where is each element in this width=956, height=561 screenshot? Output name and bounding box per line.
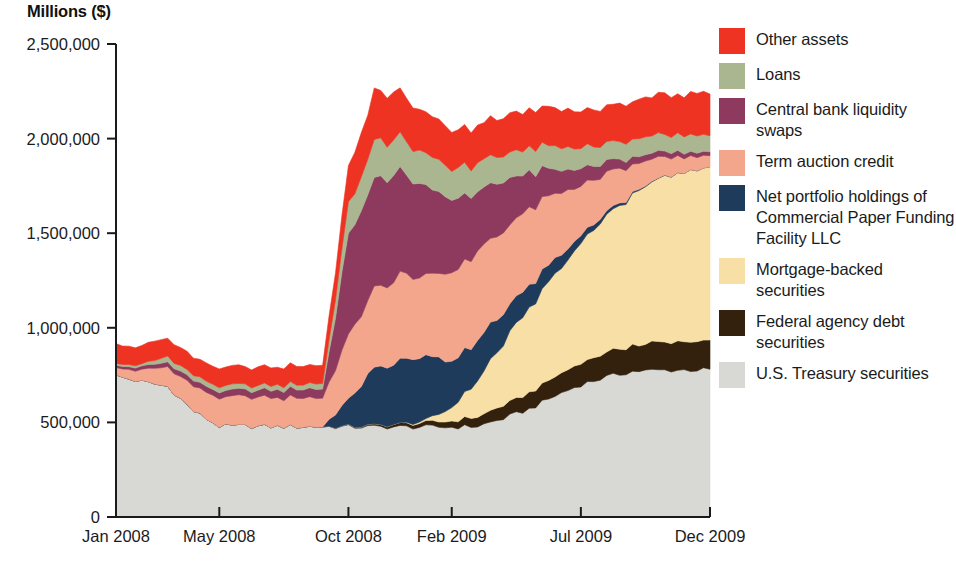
- legend-swatch-loans: [719, 63, 745, 89]
- y-tick-label: 2,500,000: [27, 35, 100, 53]
- y-tick-label: 2,000,000: [27, 130, 100, 148]
- legend-swatch-other_assets: [719, 28, 745, 54]
- legend-swatch-mbs: [719, 258, 745, 284]
- legend-item-term_auction[interactable]: Term auction credit: [719, 150, 956, 176]
- legend-item-treasury[interactable]: U.S. Treasury securities: [719, 362, 956, 388]
- legend-item-loans[interactable]: Loans: [719, 63, 956, 89]
- legend-label-loans: Loans: [756, 63, 800, 85]
- x-tick-label: Dec 2009: [675, 527, 746, 545]
- legend-swatch-swaps: [719, 98, 745, 124]
- legend-label-other_assets: Other assets: [756, 28, 848, 50]
- chart-legend: Other assetsLoansCentral bank liquidity …: [719, 28, 956, 397]
- x-tick-label: Jul 2009: [550, 527, 612, 545]
- y-tick-label: 1,500,000: [27, 224, 100, 242]
- x-tick-label: Jan 2008: [82, 527, 150, 545]
- x-tick-label: May 2008: [183, 527, 255, 545]
- x-tick-label: Feb 2009: [417, 527, 487, 545]
- legend-item-other_assets[interactable]: Other assets: [719, 28, 956, 54]
- legend-label-cpff: Net portfolio holdings of Commercial Pap…: [756, 185, 956, 249]
- legend-swatch-agency_debt: [719, 310, 745, 336]
- legend-label-mbs: Mortgage-backed securities: [756, 258, 956, 301]
- legend-label-term_auction: Term auction credit: [756, 150, 894, 172]
- legend-label-agency_debt: Federal agency debt securities: [756, 310, 956, 353]
- legend-item-agency_debt[interactable]: Federal agency debt securities: [719, 310, 956, 353]
- legend-swatch-cpff: [719, 185, 745, 211]
- legend-swatch-treasury: [719, 362, 745, 388]
- legend-swatch-term_auction: [719, 150, 745, 176]
- legend-label-treasury: U.S. Treasury securities: [756, 362, 929, 384]
- legend-item-mbs[interactable]: Mortgage-backed securities: [719, 258, 956, 301]
- legend-item-swaps[interactable]: Central bank liquidity swaps: [719, 98, 956, 141]
- legend-item-cpff[interactable]: Net portfolio holdings of Commercial Pap…: [719, 185, 956, 249]
- y-tick-label: 0: [91, 508, 100, 526]
- legend-label-swaps: Central bank liquidity swaps: [756, 98, 956, 141]
- y-tick-label: 1,000,000: [27, 319, 100, 337]
- chart-figure: Millions ($) 0500,0001,000,0001,500,0002…: [0, 0, 956, 561]
- y-tick-label: 500,000: [40, 413, 100, 431]
- y-tick-labels: 0500,0001,000,0001,500,0002,000,0002,500…: [27, 35, 116, 526]
- x-tick-label: Oct 2008: [315, 527, 382, 545]
- area-series-group: [116, 88, 710, 517]
